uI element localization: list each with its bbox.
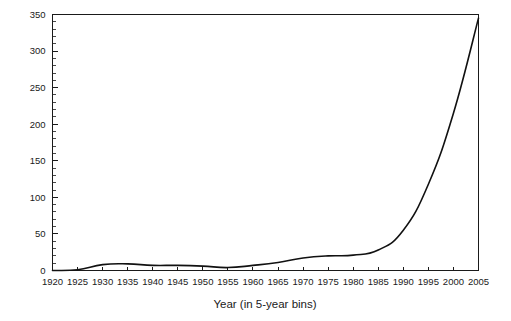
x-tick-label: 1970 [293,276,314,287]
x-tick-label: 1985 [368,276,389,287]
x-tick-label: 1960 [242,276,263,287]
y-tick-label: 350 [30,9,46,20]
x-tick-label: 1955 [217,276,238,287]
y-tick-label: 300 [30,45,46,56]
x-tick-label: 1980 [343,276,364,287]
y-tick-label: 250 [30,82,46,93]
x-tick-label: 1965 [267,276,288,287]
y-tick-label: 50 [35,228,46,239]
chart-figure: 050100150200250300350 192019251930193519… [0,0,511,321]
line-chart-plot: 050100150200250300350 192019251930193519… [0,0,511,321]
y-tick-label: 100 [30,192,46,203]
y-tick-label: 200 [30,119,46,130]
x-tick-label: 2005 [468,276,489,287]
x-tick-label: 1930 [92,276,113,287]
y-tick-label: 0 [40,265,45,276]
x-tick-label: 1990 [393,276,414,287]
x-tick-label: 1975 [318,276,339,287]
x-tick-label: 1950 [192,276,213,287]
x-tick-label: 1940 [142,276,163,287]
y-tick-label: 150 [30,155,46,166]
chart-background [0,0,511,321]
x-tick-label: 2000 [443,276,464,287]
x-tick-label: 1925 [67,276,88,287]
x-tick-label: 1935 [117,276,138,287]
x-axis-title: Year (in 5-year bins) [213,298,316,310]
x-tick-label: 1920 [42,276,63,287]
x-tick-label: 1995 [418,276,439,287]
x-tick-label: 1945 [167,276,188,287]
